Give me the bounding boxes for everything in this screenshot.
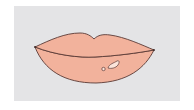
highlight-dot — [102, 67, 105, 70]
right-corner-dot — [153, 49, 155, 51]
left-corner-dot — [34, 46, 36, 48]
lips-illustration — [0, 0, 194, 110]
